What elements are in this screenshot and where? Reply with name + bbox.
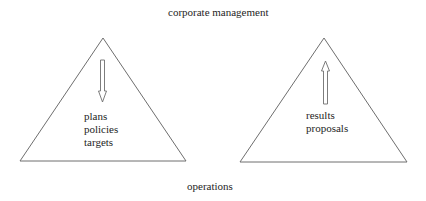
- up-arrow-icon: [322, 61, 330, 104]
- list-item: proposals: [306, 122, 348, 135]
- down-arrow-icon: [99, 60, 107, 102]
- list-item: policies: [84, 123, 118, 136]
- right-triangle-items: results proposals: [306, 109, 348, 135]
- list-item: targets: [84, 136, 118, 149]
- list-item: results: [306, 109, 348, 122]
- diagram-canvas: [0, 0, 426, 201]
- list-item: plans: [84, 110, 118, 123]
- top-label-corporate-management: corporate management: [168, 6, 268, 19]
- left-triangle-items: plans policies targets: [84, 110, 118, 149]
- bottom-label-operations: operations: [187, 180, 233, 193]
